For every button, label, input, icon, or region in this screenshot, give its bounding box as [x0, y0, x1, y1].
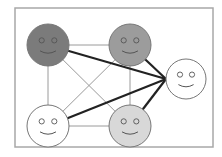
diagram-canvas [0, 0, 222, 157]
network-diagram [0, 0, 222, 157]
mid-gray-face-icon [109, 24, 151, 66]
dark-gray-face-icon [27, 24, 69, 66]
white-face-left-icon [27, 105, 69, 147]
white-face-right-icon [166, 59, 206, 99]
light-gray-face-icon [109, 105, 151, 147]
